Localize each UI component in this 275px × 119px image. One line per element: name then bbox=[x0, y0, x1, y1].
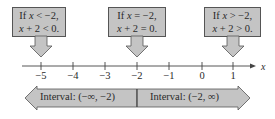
axis-arrowhead-icon bbox=[250, 64, 256, 69]
tick-label: 0 bbox=[199, 70, 204, 81]
down-arrow-icon bbox=[126, 36, 148, 57]
tick-label: −5 bbox=[35, 70, 46, 81]
tick-label: −1 bbox=[163, 70, 174, 81]
tick-label: −2 bbox=[131, 70, 142, 81]
interval-label-left: Interval: (−∞, −2) bbox=[40, 91, 115, 102]
interval-label-right: Interval: (−2, ∞) bbox=[150, 91, 219, 102]
down-arrow-icon bbox=[222, 36, 244, 57]
tick-label: 1 bbox=[230, 70, 235, 81]
tick-label: −4 bbox=[67, 70, 78, 81]
tick-label: −3 bbox=[99, 70, 110, 81]
axis-variable-label: x bbox=[261, 61, 265, 72]
down-arrow-icon bbox=[30, 36, 52, 57]
